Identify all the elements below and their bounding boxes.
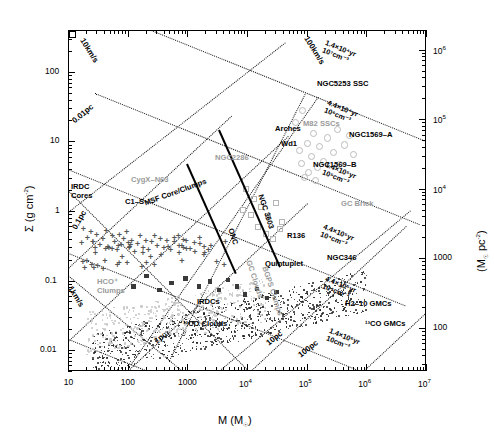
y-tick-label-3: 0.1 <box>45 275 57 285</box>
label-wd1: Wd1 <box>281 139 297 148</box>
x-tick-major-top-6 <box>426 30 427 37</box>
x-tick-label-6: 107 <box>418 377 431 389</box>
label-quintuplet: Quintuplet <box>265 259 303 268</box>
x-tick-label-2: 1000 <box>178 377 197 387</box>
x-tick-label-3: 104 <box>239 377 252 389</box>
y2-tick-label-4: 100 <box>433 322 447 332</box>
y2-tick-label-2: 104 <box>433 183 446 195</box>
x-tick-label-5: 106 <box>358 377 371 389</box>
x-axis-title: M (M☉) <box>218 414 252 428</box>
x-axis-title-text: M (M☉) <box>218 414 252 426</box>
label-m82-sscs: M82 SSCs <box>303 119 340 128</box>
x-tick-label-0: 10 <box>64 377 73 387</box>
y2-tick-label-3: 1000 <box>433 252 452 262</box>
x-tick-label-4: 105 <box>299 377 312 389</box>
label-h2-10-gmcs: H2–10 GMCs <box>345 299 391 308</box>
label-arches: Arches <box>275 124 301 133</box>
label-gc-brick: GC Brick <box>341 199 374 208</box>
y-tick-label-2: 1 <box>55 205 60 215</box>
y-axis-title-text: Σ (g cm-2) <box>23 185 35 232</box>
label-irdc-cores-line2: Cores <box>71 192 93 201</box>
y-tick-label-1: 10 <box>50 135 59 145</box>
label-13co-gmcs: ¹³CO GMCs <box>365 319 406 328</box>
y2-tick-label-0: 106 <box>433 44 446 56</box>
label-irdcs: IRDCs <box>197 297 220 306</box>
label-hco-clumps: HCO⁺ Clumps <box>97 277 125 295</box>
y-tick-label-4: 0.01 <box>40 344 57 354</box>
label-ngc346: NGC346 <box>327 253 357 262</box>
y2-axis-title-text: (M☉ pc-2) <box>475 230 487 272</box>
x-tick-major-6 <box>426 364 427 371</box>
y2-axis-title: (M☉ pc-2) <box>474 230 489 272</box>
label-irdc-cores: IRDC Cores <box>71 183 93 200</box>
label-c1-s: C1–S <box>125 197 144 206</box>
label-cygx-n63: CygX–N63 <box>131 175 169 184</box>
figure-root: Σ (g cm-2) (M☉ pc-2) M (M☉) 10km/s <box>0 0 494 442</box>
data-point-13co <box>110 370 111 371</box>
y-tick-minor <box>68 371 72 372</box>
y2-tick-label-1: 105 <box>433 113 446 125</box>
y-axis-title: Σ (g cm-2) <box>22 185 35 232</box>
label-hco-clumps-line1: HCO⁺ <box>97 277 125 286</box>
label-ngc2286: NGC2286 <box>215 153 249 162</box>
plot-area: 10km/s 100km/s 1km/s 0.01pc 0.1pc 1pc 10… <box>68 30 426 371</box>
label-hco-clumps-line2: Clumps <box>97 286 125 295</box>
x-tick-label-1: 100 <box>121 377 135 387</box>
label-ngc1569-b: NGC1569–B <box>313 160 356 169</box>
label-ngc1569-a: NGC1569–A <box>349 130 392 139</box>
label-13co-clouds: ¹³CO Clouds <box>183 319 227 328</box>
y-tick-label-0: 100 <box>45 66 59 76</box>
label-ngc5253-ssc: NGC5253 SSC <box>317 79 369 88</box>
label-r136: R136 <box>287 231 305 240</box>
